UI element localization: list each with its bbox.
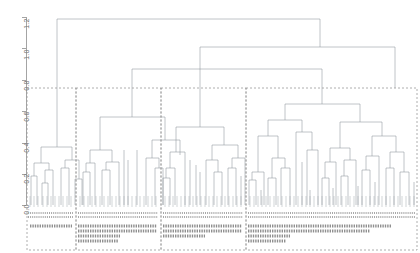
cluster-box-4 <box>246 88 417 250</box>
dendrogram-figure: 0.0 0.2 0.4 0.6 0.8 1.0 1.2 <box>0 0 420 253</box>
leaf-labels <box>28 213 416 217</box>
dendrogram-canvas <box>0 0 420 253</box>
y-axis <box>22 17 26 205</box>
leaf-labels-secondary <box>30 226 392 241</box>
dendrogram-tree <box>31 19 414 205</box>
